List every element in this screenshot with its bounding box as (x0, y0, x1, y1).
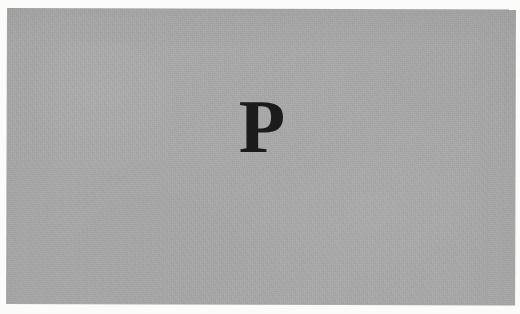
scan-grain-texture (6, 8, 516, 306)
scan-mottle-overlay (6, 8, 516, 306)
scanned-page: P (0, 0, 520, 314)
gray-panel (6, 8, 516, 306)
scan-vignette-overlay (6, 8, 516, 306)
